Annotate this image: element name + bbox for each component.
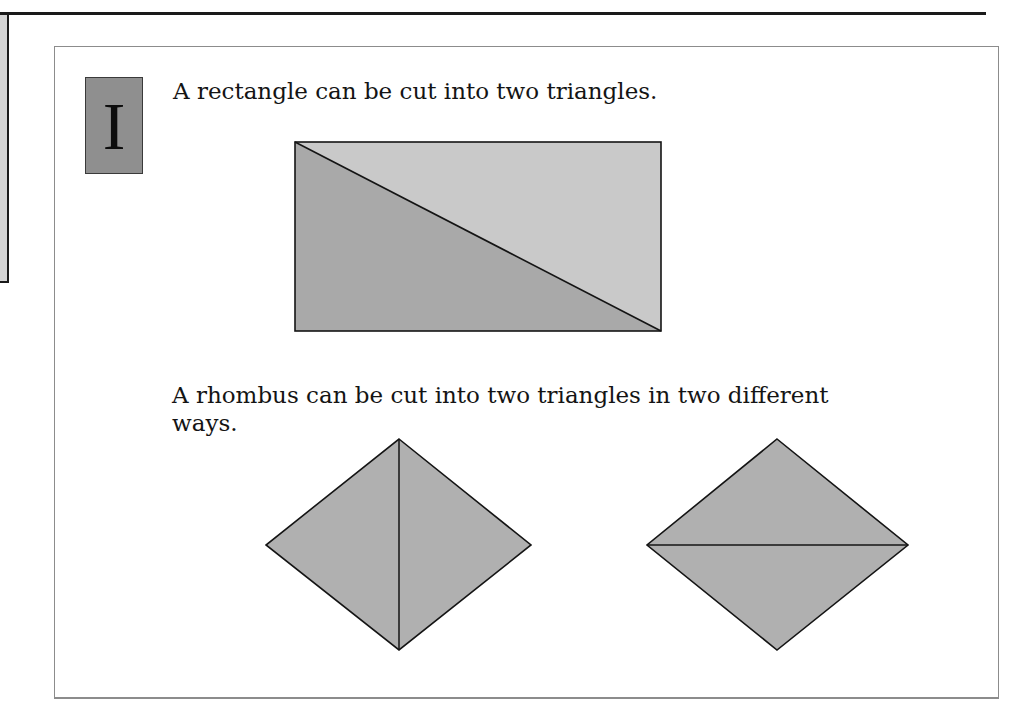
rhombus-horizontal-figure xyxy=(647,439,908,650)
rhombus-vertical-figure xyxy=(266,439,531,650)
rectangle-figure xyxy=(295,142,661,331)
figures-canvas xyxy=(0,0,1028,723)
